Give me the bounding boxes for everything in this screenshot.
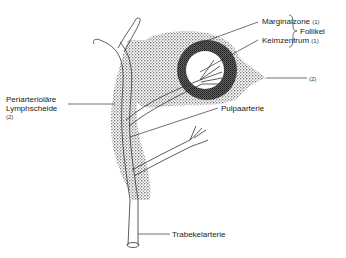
label-marginalzone: Marginalzone (1) xyxy=(262,17,320,27)
keimzentrum-ref: (1) xyxy=(311,38,318,44)
label-pulpaarterie: Pulpaarterie xyxy=(221,104,264,113)
spleen-diagram: Marginalzone (1) Keimzentrum (1) Follike… xyxy=(0,0,346,258)
label-keimzentrum: Keimzentrum (1) xyxy=(262,36,319,46)
pals-line1: Periarterioläre xyxy=(6,95,57,104)
pals-line2: Lymphscheide xyxy=(6,104,57,113)
keimzentrum-text: Keimzentrum xyxy=(262,36,309,45)
label-follikel: Follikel xyxy=(300,27,325,36)
pals-ref: (2) xyxy=(6,113,57,122)
label-trabekelarterie: Trabekelarterie xyxy=(172,230,226,239)
marginalzone-text: Marginalzone xyxy=(262,17,310,26)
marginalzone-ref: (1) xyxy=(312,19,319,25)
label-pals: Periarterioläre Lymphscheide (2) xyxy=(6,95,57,122)
label-red-pulp-ref: (2) xyxy=(309,75,316,84)
